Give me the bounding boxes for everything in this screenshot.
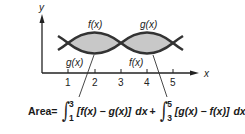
formula-plus: + (150, 105, 156, 117)
y-axis-arrow-icon (40, 14, 45, 23)
x-axis-arrow-icon (190, 71, 199, 76)
formula-equals: = (51, 105, 57, 117)
int2-upper: 5 (167, 99, 172, 109)
tick-label-5: 5 (170, 77, 176, 88)
area-formula: Area = ∫ 3 1 [f(x) − g(x)] dx + ∫ 5 3 [g… (10, 98, 245, 124)
tick-label-4: 4 (144, 77, 150, 88)
integral-2: ∫ 5 3 [g(x) − f(x)] dx. (158, 99, 245, 123)
int2-lower: 3 (167, 113, 172, 123)
integral-sign-icon: ∫ (159, 100, 167, 122)
formula-lhs: Area (28, 105, 51, 117)
shaded-region-2 (121, 33, 173, 54)
int1-dx: dx (135, 105, 147, 117)
y-axis-label: y (38, 2, 45, 13)
label-f-top: f(x) (88, 19, 102, 30)
diagram: 1 2 3 4 5 y x f(x) g(x) g(x) f(x) Area =… (0, 0, 245, 134)
label-f-bottom: f(x) (129, 57, 143, 68)
integral-sign-icon: ∫ (61, 100, 69, 122)
int1-integrand: [f(x) − g(x)] (77, 105, 132, 117)
label-g-top: g(x) (140, 19, 157, 30)
shaded-region-1 (68, 33, 121, 54)
integral-1: ∫ 3 1 [f(x) − g(x)] dx (60, 99, 148, 123)
x-axis-label: x (203, 68, 210, 79)
int2-dx: dx. (233, 105, 245, 117)
tick-label-1: 1 (65, 77, 71, 88)
label-g-bottom: g(x) (66, 57, 83, 68)
tick-label-3: 3 (118, 77, 124, 88)
tick-label-2: 2 (92, 77, 98, 88)
int2-integrand: [g(x) − f(x)] (175, 105, 230, 117)
pointer-line-2 (153, 55, 167, 97)
